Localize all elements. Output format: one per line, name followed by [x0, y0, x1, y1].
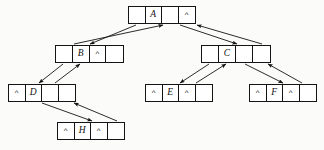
edge-a-left-to-b: [90, 25, 136, 44]
node-a-data-cell: A: [146, 7, 163, 23]
node-f-nil-cell-2: ^: [283, 85, 300, 101]
edge-e-parent-to-c: [196, 64, 226, 83]
node-h-nil-cell-0: ^: [58, 123, 75, 139]
node-b-nil-cell-2: ^: [90, 46, 107, 62]
tree-node-b: B^: [55, 45, 124, 63]
node-d-pointer-cell-2: [42, 85, 59, 101]
edge-h-parent-to-d: [74, 103, 117, 121]
edge-d-parent-to-b: [55, 64, 80, 83]
node-b-pointer-cell-3: [106, 46, 123, 62]
edge-c-right-to-f: [245, 64, 283, 83]
edge-c-left-to-e: [180, 64, 209, 83]
node-e-nil-cell-2: ^: [179, 85, 196, 101]
edges-group: [39, 25, 302, 121]
node-d-pointer-cell-3: [59, 85, 75, 101]
node-e-nil-cell-0: ^: [146, 85, 163, 101]
tree-node-a: A^: [128, 6, 196, 24]
node-c-pointer-cell-0: [202, 46, 219, 62]
node-d-data-cell: D: [26, 85, 43, 101]
node-h-nil-cell-2: ^: [91, 123, 108, 139]
node-a-pointer-cell-2: [162, 7, 179, 23]
node-c-pointer-cell-3: [253, 46, 270, 62]
node-h-pointer-cell-3: [108, 123, 124, 139]
tree-node-f: ^F^: [249, 84, 317, 102]
tree-node-c: C: [201, 45, 271, 63]
tree-node-h: ^H^: [57, 122, 125, 140]
node-f-data-cell: F: [267, 85, 284, 101]
node-e-data-cell: E: [163, 85, 180, 101]
edge-c-parent-to-a: [197, 25, 262, 44]
node-a-pointer-cell-0: [129, 7, 146, 23]
tree-diagram-canvas: A^B^C^D^E^^F^^H^: [0, 0, 324, 150]
tree-node-e: ^E^: [145, 84, 213, 102]
edge-a-right-to-c: [180, 25, 237, 44]
node-b-data-cell: B: [73, 46, 90, 62]
tree-node-d: ^D: [8, 84, 76, 102]
node-c-pointer-cell-2: [236, 46, 253, 62]
edge-b-parent-to-a: [74, 25, 163, 44]
node-a-nil-cell-3: ^: [179, 7, 195, 23]
node-h-data-cell: H: [75, 123, 92, 139]
edge-d-right-to-h: [42, 103, 92, 121]
node-e-pointer-cell-3: [196, 85, 212, 101]
edge-f-parent-to-c: [268, 64, 302, 83]
node-d-nil-cell-0: ^: [9, 85, 26, 101]
node-f-pointer-cell-3: [300, 85, 316, 101]
node-b-pointer-cell-0: [56, 46, 73, 62]
node-f-nil-cell-0: ^: [250, 85, 267, 101]
edge-b-left-to-d: [39, 64, 63, 83]
node-c-data-cell: C: [219, 46, 236, 62]
